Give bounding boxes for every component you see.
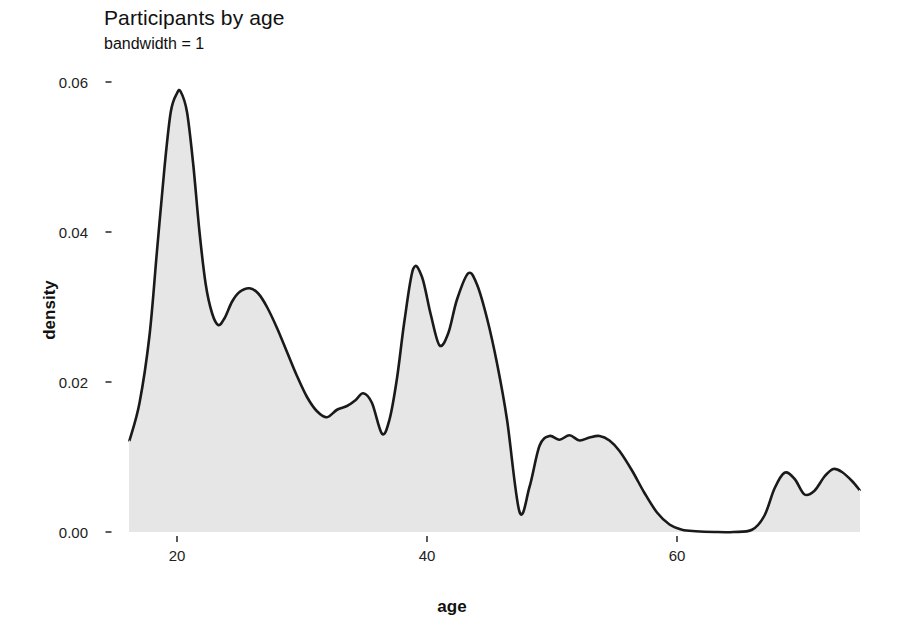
plot-canvas [0,0,904,629]
x-axis-tick-label: 40 [419,547,436,564]
y-axis-tick-label: 0.06 [28,74,88,91]
y-axis-tick-label: 0.04 [28,224,88,241]
x-axis-tick-label: 60 [669,547,686,564]
y-axis-tick-label: 0.00 [28,524,88,541]
x-axis-tick-label: 20 [169,547,186,564]
y-axis-label: density [40,250,60,370]
y-axis-tick-label: 0.02 [28,374,88,391]
density-plot: Participants by age bandwidth = 1 0.000.… [0,0,904,629]
x-axis-label: age [0,597,904,617]
